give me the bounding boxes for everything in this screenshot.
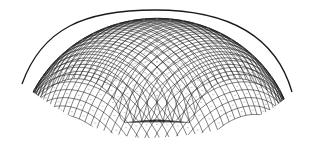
lattice-member	[108, 25, 281, 127]
lattice-member	[8, 71, 161, 146]
diagram-canvas	[0, 0, 320, 146]
lattice-member	[157, 79, 307, 146]
lattice-member	[10, 64, 166, 146]
gridshell-dome-drawing	[0, 0, 320, 146]
lattice-member	[157, 114, 307, 146]
lattice-member	[8, 114, 158, 146]
lattice-member	[149, 64, 305, 146]
lattice-member	[8, 79, 158, 146]
lattice-member	[8, 106, 161, 146]
lattice-member	[25, 32, 195, 144]
lattice-member	[13, 52, 174, 146]
lattice-member	[119, 32, 289, 144]
lattice-member	[153, 71, 306, 146]
lattice-member	[68, 20, 246, 116]
lattice-member	[33, 25, 206, 127]
lattice-member	[153, 106, 306, 146]
lattice-member	[68, 20, 246, 116]
